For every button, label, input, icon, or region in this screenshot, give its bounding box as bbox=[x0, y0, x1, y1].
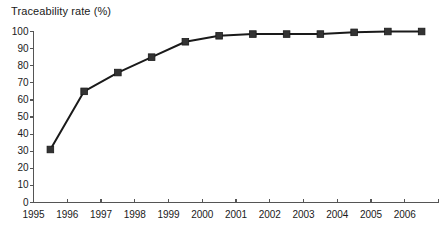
x-axis-tick-label: 2003 bbox=[287, 209, 321, 220]
y-axis-tick-label: 90 bbox=[7, 43, 29, 54]
series-traceability-rate bbox=[47, 28, 425, 153]
line-chart-svg bbox=[0, 0, 447, 232]
data-point-marker bbox=[283, 31, 290, 38]
data-point-marker bbox=[418, 28, 425, 35]
data-point-marker bbox=[385, 28, 392, 35]
data-point-marker bbox=[148, 54, 155, 61]
y-axis-tick-label: 50 bbox=[7, 111, 29, 122]
x-axis-tick-label: 1998 bbox=[118, 209, 152, 220]
x-axis-tick-label: 1999 bbox=[152, 209, 186, 220]
data-point-marker bbox=[115, 69, 122, 76]
y-axis-tick-label: 30 bbox=[7, 145, 29, 156]
x-axis-tick-label: 2001 bbox=[219, 209, 253, 220]
y-axis-tick-label: 60 bbox=[7, 94, 29, 105]
figure: Traceability rate (%) 010203040506070809… bbox=[0, 0, 447, 232]
data-point-marker bbox=[81, 88, 88, 95]
data-point-marker bbox=[47, 146, 54, 153]
x-axis-tick-label: 1997 bbox=[84, 209, 118, 220]
data-point-marker bbox=[250, 31, 257, 38]
data-point-marker bbox=[317, 31, 324, 38]
x-axis-tick-label: 2006 bbox=[388, 209, 422, 220]
x-axis-tick-label: 2000 bbox=[185, 209, 219, 220]
y-axis-tick-label: 100 bbox=[7, 26, 29, 37]
y-axis-tick-label: 40 bbox=[7, 128, 29, 139]
data-point-marker bbox=[216, 32, 223, 39]
data-point-marker bbox=[351, 29, 358, 36]
x-axis-tick-label: 2004 bbox=[320, 209, 354, 220]
y-axis-tick-label: 0 bbox=[7, 197, 29, 208]
plot-area bbox=[0, 0, 447, 232]
y-axis-tick-label: 70 bbox=[7, 77, 29, 88]
y-axis-tick-label: 10 bbox=[7, 179, 29, 190]
x-axis-tick-label: 2002 bbox=[253, 209, 287, 220]
x-axis-tick-label: 1996 bbox=[50, 209, 84, 220]
y-axis-tick-label: 80 bbox=[7, 60, 29, 71]
x-axis-tick-label: 1995 bbox=[17, 209, 51, 220]
axes bbox=[30, 32, 439, 204]
data-point-marker bbox=[182, 38, 189, 45]
y-axis-tick-label: 20 bbox=[7, 162, 29, 173]
x-axis-tick-label: 2005 bbox=[354, 209, 388, 220]
